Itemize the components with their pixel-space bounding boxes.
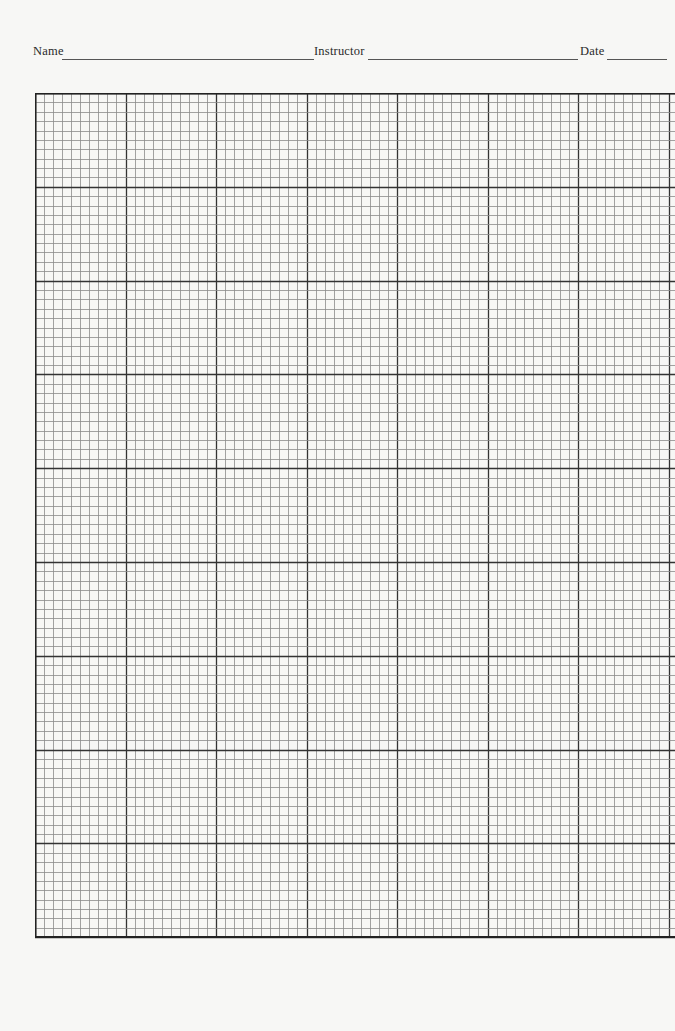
- form-header: Name Instructor Date: [0, 0, 667, 70]
- instructor-label: Instructor: [314, 44, 365, 59]
- date-field[interactable]: [607, 59, 667, 60]
- name-label: Name: [33, 44, 64, 59]
- graph-paper-grid: [35, 93, 675, 937]
- date-label: Date: [580, 44, 604, 59]
- name-field[interactable]: [62, 59, 314, 60]
- grid-lines: [35, 93, 675, 939]
- instructor-field[interactable]: [368, 59, 578, 60]
